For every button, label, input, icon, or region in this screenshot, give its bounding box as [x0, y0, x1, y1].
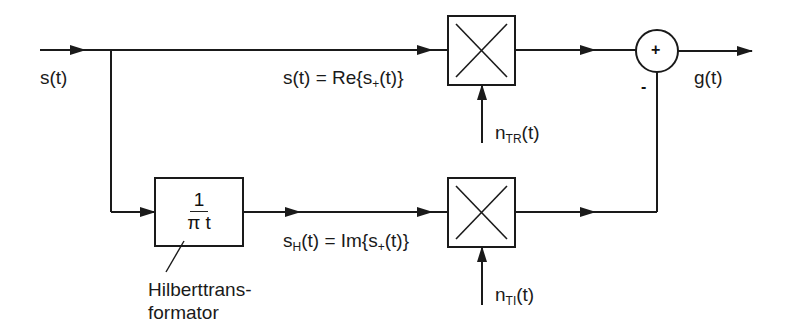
hilbert-transfer-function: 1 π t — [155, 178, 243, 246]
input-label: s(t) — [40, 68, 67, 87]
output-label: g(t) — [694, 68, 723, 87]
noise-tr-label: nTR(t) — [495, 123, 540, 145]
noise-ti-label: nTI(t) — [495, 285, 534, 307]
plus-sign: + — [651, 41, 660, 59]
hilbert-caption: Hilberttrans- formator — [148, 279, 251, 325]
top-equation: s(t) = Re{s+(t)} — [283, 68, 404, 90]
block-diagram-canvas — [0, 0, 790, 335]
bottom-equation: sH(t) = Im{s+(t)} — [283, 231, 409, 253]
minus-sign: - — [641, 78, 646, 96]
